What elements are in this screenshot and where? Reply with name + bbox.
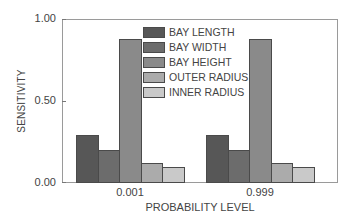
legend-item: INNER RADIUS (143, 87, 244, 98)
legend-item: BAY HEIGHT (143, 57, 232, 68)
y-tick-label: 0.00 (22, 176, 56, 188)
x-axis-label: PROBABILITY LEVEL (145, 201, 254, 213)
legend-label: BAY LENGTH (169, 27, 235, 38)
bar-bay-height (249, 39, 272, 183)
legend-swatch (143, 72, 165, 83)
x-tick-label: 0.001 (116, 186, 144, 198)
bar-outer-radius (271, 163, 294, 183)
bar-bay-width (98, 150, 121, 183)
bar-bay-width (228, 150, 251, 183)
y-tick-mark (62, 182, 66, 183)
bar-bay-length (206, 135, 229, 183)
legend-label: BAY WIDTH (169, 42, 226, 53)
x-tick-label: 0.999 (246, 186, 274, 198)
y-tick-mark (62, 101, 66, 102)
y-tick-mark (62, 19, 66, 20)
y-tick-label: 1.00 (22, 12, 56, 24)
legend-item: BAY LENGTH (143, 27, 235, 38)
sensitivity-bar-chart: 1.00 0.50 0.00 SENSITIVITY 0.001 0.999 P… (0, 0, 355, 223)
legend-label: BAY HEIGHT (169, 57, 232, 68)
legend-swatch (143, 42, 165, 53)
y-axis-label: SENSITIVITY (16, 69, 27, 132)
legend-swatch (143, 27, 165, 38)
legend-swatch (143, 57, 165, 68)
bar-inner-radius (292, 167, 315, 183)
bar-bay-height (119, 39, 142, 183)
legend-item: BAY WIDTH (143, 42, 226, 53)
legend-label: OUTER RADIUS (169, 72, 248, 83)
bar-bay-length (76, 135, 99, 183)
y-tick-label: 0.50 (22, 94, 56, 106)
bar-inner-radius (162, 167, 185, 183)
bar-outer-radius (141, 163, 164, 183)
legend-swatch (143, 87, 165, 98)
legend-label: INNER RADIUS (169, 87, 244, 98)
legend-item: OUTER RADIUS (143, 72, 248, 83)
